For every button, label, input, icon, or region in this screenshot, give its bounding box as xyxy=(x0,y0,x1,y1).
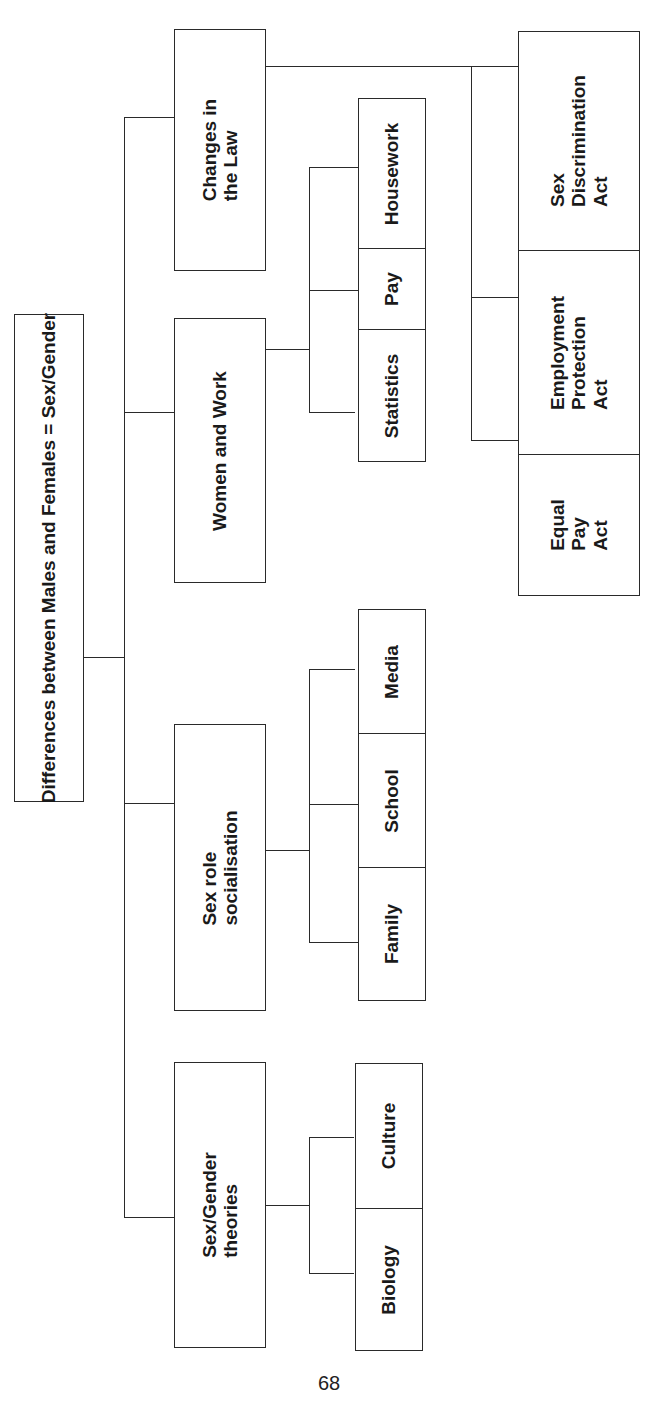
root-node-label: Differences between Males and Females = … xyxy=(38,313,59,804)
connector xyxy=(266,349,309,350)
connector xyxy=(309,290,359,291)
branch-label: Women and Work xyxy=(209,371,230,531)
page-number: 68 xyxy=(318,1372,340,1395)
connector xyxy=(309,412,355,413)
node-label: Media xyxy=(381,645,402,699)
node-biology: Biology xyxy=(355,1208,423,1351)
branch-changes-in-the-law: Changes in the Law xyxy=(174,29,266,271)
node-sex-discrimination-act: Sex Discrimination Act xyxy=(518,31,640,251)
node-label: Pay xyxy=(381,272,402,306)
connector xyxy=(309,669,355,670)
connector xyxy=(309,942,359,943)
branch-women-and-work: Women and Work xyxy=(174,318,266,583)
node-statistics: Statistics xyxy=(358,329,426,462)
branch-sex-gender-theories: Sex/Gender theories xyxy=(174,1062,266,1348)
node-equal-pay-act: Equal Pay Act xyxy=(518,454,640,596)
connector xyxy=(309,1273,354,1274)
connector xyxy=(471,297,518,298)
connector xyxy=(124,412,174,413)
branch-label: Sex role socialisation xyxy=(199,810,242,925)
node-label: Culture xyxy=(378,1103,399,1170)
branch-label: Sex/Gender theories xyxy=(199,1152,242,1258)
node-label: Sex Discrimination Act xyxy=(547,75,611,207)
node-label: Family xyxy=(381,904,402,964)
connector xyxy=(471,440,518,441)
node-label: Equal Pay Act xyxy=(547,499,611,551)
branch-label: Changes in the Law xyxy=(199,99,242,201)
connector xyxy=(266,1205,309,1206)
branch-sex-role-socialisation: Sex role socialisation xyxy=(174,724,266,1011)
connector xyxy=(309,669,310,942)
connector xyxy=(84,657,124,658)
node-pay: Pay xyxy=(358,248,426,330)
connector xyxy=(266,850,309,851)
node-school: School xyxy=(358,733,426,868)
node-family: Family xyxy=(358,867,426,1001)
node-label: Employment Protection Act xyxy=(547,295,611,409)
node-employment-protection-act: Employment Protection Act xyxy=(518,250,640,455)
connector xyxy=(124,117,174,118)
connector xyxy=(124,1217,174,1218)
node-housework: Housework xyxy=(358,98,426,249)
node-media: Media xyxy=(358,609,426,734)
connector xyxy=(309,1137,310,1273)
connector xyxy=(309,1137,354,1138)
connector xyxy=(124,803,174,804)
connector xyxy=(471,66,472,440)
node-culture: Culture xyxy=(355,1063,423,1209)
connector xyxy=(309,804,359,805)
node-label: Biology xyxy=(378,1245,399,1315)
node-label: School xyxy=(381,769,402,832)
node-label: Statistics xyxy=(381,353,402,437)
connector xyxy=(266,66,518,67)
root-node: Differences between Males and Females = … xyxy=(14,314,84,802)
node-label: Housework xyxy=(381,122,402,224)
spine-connector xyxy=(124,117,125,1217)
connector xyxy=(309,167,359,168)
